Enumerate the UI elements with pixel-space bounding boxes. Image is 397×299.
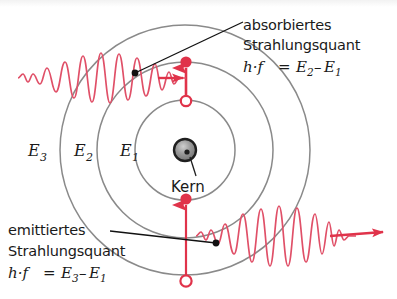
emitted-formula-sub-first: 3 [72, 272, 79, 284]
leader-lines [110, 22, 243, 246]
emitted-formula-e-second: E [88, 264, 100, 282]
energy-label-e1-subscript: 1 [132, 151, 139, 164]
outgoing-photon-wave [196, 206, 383, 266]
energy-label-e3-letter: E [27, 141, 40, 160]
absorbed-caption-line1: absorbiertes [243, 17, 331, 33]
absorbed-formula-minus: – [314, 58, 322, 76]
emitted-formula-e-first: E [60, 264, 72, 282]
energy-label-e2-subscript: 2 [85, 151, 93, 164]
absorption-transition [180, 56, 191, 106]
emitted-formula-sub-second: 1 [100, 272, 107, 284]
energy-level-labels: E 3 E 2 E 1 [27, 141, 139, 164]
nucleus-core-dot [184, 149, 189, 154]
emitted-annotation: emittiertes Strahlungsquant h·f = E 3 – … [8, 222, 126, 284]
absorbed-formula-e-second: E [323, 58, 335, 76]
absorbed-formula: h·f = E 2 – E 1 [243, 58, 342, 78]
emission-filled-dot-e1 [180, 193, 191, 204]
diagram-canvas: E 3 E 2 E 1 Kern [0, 0, 397, 299]
energy-label-e1-letter: E [119, 141, 132, 160]
absorption-open-circle-e1 [181, 96, 191, 106]
nucleus-leader-line [190, 157, 196, 176]
emission-open-circle-e3 [180, 275, 191, 286]
energy-label-e2-letter: E [73, 141, 86, 160]
nucleus-label: Kern [171, 178, 205, 196]
absorbed-formula-sub-second: 1 [335, 66, 342, 78]
bohr-atom-diagram: E 3 E 2 E 1 Kern [0, 0, 397, 299]
emitted-formula-minus: – [79, 264, 87, 282]
absorbed-caption-line2: Strahlungsquant [243, 37, 361, 53]
emitted-formula: h·f = E 3 – E 1 [8, 264, 107, 284]
absorbed-formula-e-first: E [295, 58, 307, 76]
nucleus-icon [174, 139, 196, 161]
absorbed-annotation: absorbiertes Strahlungsquant h·f = E 2 –… [243, 17, 361, 78]
emitted-formula-equals: = [43, 264, 56, 282]
emitted-formula-lhs: h·f [8, 264, 30, 282]
absorption-filled-dot-e2 [180, 56, 191, 67]
nucleus-group: Kern [171, 139, 205, 196]
absorbed-formula-equals: = [278, 58, 291, 76]
emitted-caption-line2: Strahlungsquant [8, 243, 126, 259]
emitted-leader-dot [213, 240, 220, 247]
emitted-caption-line1: emittiertes [8, 222, 85, 238]
absorbed-formula-sub-first: 2 [306, 66, 314, 78]
absorbed-formula-lhs: h·f [243, 58, 265, 76]
absorbed-leader-dot [132, 70, 139, 77]
energy-label-e3-subscript: 3 [40, 151, 47, 164]
